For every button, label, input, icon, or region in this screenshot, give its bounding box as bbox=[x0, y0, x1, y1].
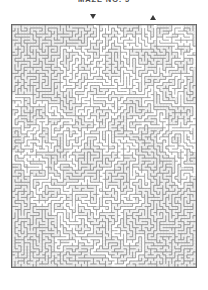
maze-puzzle-page: MAZE NO. 5 bbox=[0, 0, 208, 290]
page-title: MAZE NO. 5 bbox=[0, 0, 208, 6]
maze-exit-marker-icon bbox=[150, 15, 156, 20]
maze-grid bbox=[11, 24, 197, 268]
maze-entrance-marker-icon bbox=[90, 14, 96, 19]
marker-row bbox=[0, 14, 208, 24]
maze-canvas bbox=[12, 25, 196, 267]
